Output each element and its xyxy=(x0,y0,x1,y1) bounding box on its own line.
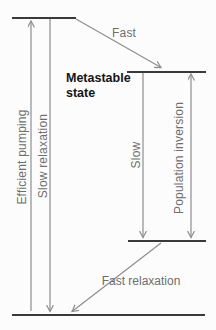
slow-relaxation-label: Slow relaxation xyxy=(36,114,50,198)
slow-decay-label: Slow xyxy=(129,142,143,169)
energy-level-diagram: Fast Metastable state Efficient pumping … xyxy=(0,0,216,330)
metastable-state-label: Metastable state xyxy=(66,71,142,101)
efficient-pumping-label: Efficient pumping xyxy=(15,109,29,204)
fast-decay-label: Fast xyxy=(112,26,136,40)
fast-relaxation-label: Fast relaxation xyxy=(101,275,181,288)
population-inversion-label: Population inversion xyxy=(172,102,186,214)
